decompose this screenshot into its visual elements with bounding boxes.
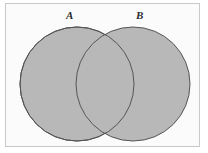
set-b-circle (76, 27, 190, 141)
set-b-label: B (136, 10, 143, 21)
set-a-label: A (66, 10, 73, 21)
venn-diagram-figure: A B (0, 0, 208, 153)
venn-diagram-canvas (0, 0, 208, 153)
